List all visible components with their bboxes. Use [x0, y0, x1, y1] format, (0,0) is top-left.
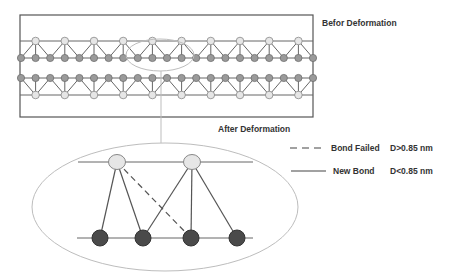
dark-atom-node [135, 230, 151, 246]
light-atom-node [178, 91, 186, 99]
gray-atom-node [266, 54, 273, 61]
gray-atom-node [17, 74, 24, 81]
gray-atom-node [17, 54, 24, 61]
before-deformation-title: Befor Deformation [322, 18, 397, 28]
light-atom-node [32, 37, 40, 45]
dark-atom-node [92, 230, 108, 246]
gray-atom-node [207, 54, 214, 61]
gray-atom-node [90, 74, 97, 81]
gray-atom-node [163, 54, 170, 61]
light-atom-node [207, 91, 215, 99]
gray-atom-node [149, 54, 156, 61]
light-atom-node [236, 37, 244, 45]
gray-atom-node [76, 74, 83, 81]
light-atom-node [149, 37, 157, 45]
light-atom-node [32, 91, 40, 99]
gray-atom-node [207, 74, 214, 81]
before-frame [20, 15, 313, 117]
gray-atom-node [47, 54, 54, 61]
gray-atom-node [105, 54, 112, 61]
light-atom-node [119, 37, 127, 45]
light-atom-node [295, 91, 303, 99]
legend-lines [290, 148, 326, 171]
gray-atom-node [178, 74, 185, 81]
gray-atom-node [76, 54, 83, 61]
light-atom-node [265, 37, 273, 45]
gray-atom-node [193, 74, 200, 81]
gray-atom-node [134, 74, 141, 81]
gray-atom-node [236, 74, 243, 81]
before-deformation-structure [17, 15, 316, 117]
after-deformation-title: After Deformation [218, 124, 290, 134]
gray-atom-node [61, 54, 68, 61]
light-atom-node [236, 91, 244, 99]
dark-atom-node [229, 230, 245, 246]
new-bond-line [117, 162, 143, 238]
gray-atom-node [251, 54, 258, 61]
light-atom-node [207, 37, 215, 45]
light-atom-node [90, 91, 98, 99]
gray-atom-node [32, 54, 39, 61]
zoom-callout [32, 39, 298, 271]
light-atom-node [265, 91, 273, 99]
after-deformation-structure [77, 155, 253, 247]
gray-atom-node [280, 54, 287, 61]
legend-new-bond-condition: D<0.85 nm [390, 166, 433, 176]
new-bond-line [191, 162, 192, 238]
gray-atom-node [163, 74, 170, 81]
gray-atom-node [61, 74, 68, 81]
gray-atom-node [236, 54, 243, 61]
new-bond-line [192, 162, 237, 238]
gray-atom-node [295, 74, 302, 81]
light-atom-node [149, 91, 157, 99]
light-atom-node [295, 37, 303, 45]
gray-atom-node [120, 74, 127, 81]
light-atom-node [61, 91, 69, 99]
light-atom-node [61, 37, 69, 45]
gray-atom-node [105, 74, 112, 81]
gray-atom-node [222, 54, 229, 61]
light-atom-node [90, 37, 98, 45]
gray-atom-node [32, 74, 39, 81]
legend-bond-failed-label: Bond Failed [331, 143, 380, 153]
gray-atom-node [90, 54, 97, 61]
deformation-diagram [0, 0, 450, 276]
gray-atom-node [134, 54, 141, 61]
light-atom-node [119, 91, 127, 99]
light-atom-node [184, 155, 201, 170]
gray-atom-node [47, 74, 54, 81]
failed-bond-line [117, 162, 191, 238]
gray-atom-node [295, 54, 302, 61]
gray-atom-node [222, 74, 229, 81]
light-atom-node [109, 155, 126, 170]
gray-atom-node [266, 74, 273, 81]
dark-atom-node [183, 230, 199, 246]
gray-atom-node [251, 74, 258, 81]
gray-atom-node [309, 74, 316, 81]
gray-atom-node [309, 54, 316, 61]
legend-new-bond-label: New Bond [333, 166, 375, 176]
new-bond-line [143, 162, 192, 238]
gray-atom-node [149, 74, 156, 81]
gray-atom-node [178, 54, 185, 61]
new-bond-line [100, 162, 117, 238]
legend-bond-failed-condition: D>0.85 nm [390, 143, 433, 153]
gray-atom-node [280, 74, 287, 81]
